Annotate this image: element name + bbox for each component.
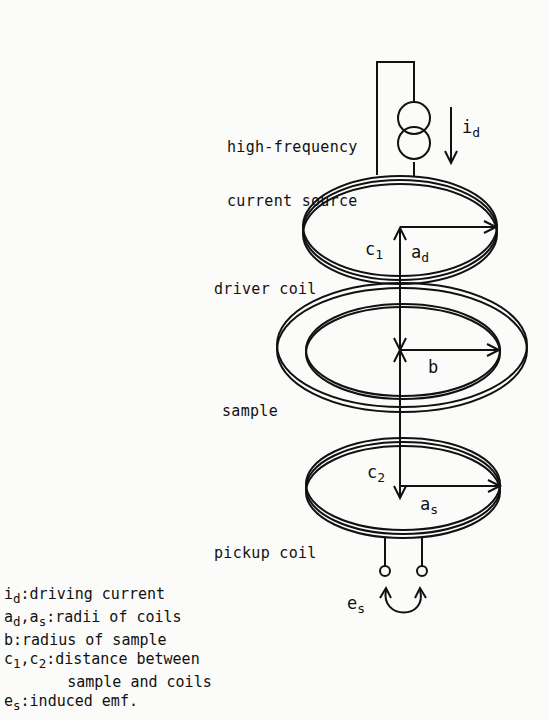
legend-item: sample and coils [4, 673, 212, 692]
current-source-label: high-frequency current source [227, 102, 358, 228]
label-id: id [462, 118, 480, 142]
legend-item: c1,c2:distance between [4, 650, 212, 673]
legend: id:driving current ad,as:radii of coils … [4, 585, 212, 715]
driver-coil-label: driver coil [214, 280, 317, 298]
legend-item: ad,as:radii of coils [4, 608, 212, 631]
terminal-left [380, 566, 390, 576]
current-source-icon [398, 102, 430, 134]
legend-item: es:induced emf. [4, 692, 212, 715]
label-as: as [420, 495, 438, 519]
source-label-line2: current source [227, 192, 358, 210]
legend-item: id:driving current [4, 585, 212, 608]
label-c2: c2 [367, 463, 385, 487]
terminal-right [417, 566, 427, 576]
label-b: b [428, 358, 438, 376]
label-es: es [347, 594, 365, 618]
pickup-coil-label: pickup coil [214, 544, 317, 562]
legend-item: b:radius of sample [4, 631, 212, 650]
source-label-line1: high-frequency [227, 138, 358, 156]
label-ad: ad [411, 243, 429, 267]
label-c1: c1 [365, 240, 383, 264]
pickup-coil [306, 438, 500, 538]
sample-label: sample [222, 402, 278, 420]
emf-arrow-icon [385, 590, 420, 613]
